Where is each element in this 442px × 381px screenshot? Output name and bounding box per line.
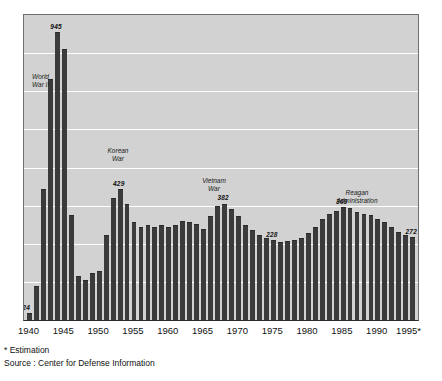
bar-slot	[312, 15, 319, 320]
bar-slot	[138, 15, 145, 320]
bar-slot	[221, 15, 228, 320]
bar-slot	[374, 15, 381, 320]
annotation-line-2: Administration	[318, 197, 396, 205]
x-axis-tick: 1980	[296, 325, 317, 336]
bar-slot	[263, 15, 270, 320]
bar	[125, 204, 130, 320]
bar	[327, 214, 332, 320]
data-label: 24	[23, 304, 30, 311]
bar-slot	[367, 15, 374, 320]
footnotes: * Estimation Source : Center for Defense…	[4, 344, 434, 370]
bar	[250, 230, 255, 320]
bar-slot	[388, 15, 395, 320]
bar-slot	[131, 15, 138, 320]
bar	[132, 222, 137, 320]
bar	[90, 273, 95, 320]
bar-slot	[291, 15, 298, 320]
data-label: 228	[266, 231, 277, 238]
bar-slot	[354, 15, 361, 320]
data-label: 382	[217, 194, 228, 201]
bar-slot	[305, 15, 312, 320]
x-axis-tick: 1955	[122, 325, 143, 336]
bar	[194, 224, 199, 320]
bar	[236, 216, 241, 320]
bar	[278, 242, 283, 320]
annotation-vietnam-war: Vietnam War	[190, 177, 238, 193]
bar-slot	[158, 15, 165, 320]
x-axis-tick: 1975	[262, 325, 283, 336]
x-axis-tick: 1950	[88, 325, 109, 336]
bar-slot	[40, 15, 47, 320]
bar-slot	[117, 15, 124, 320]
bar-slot	[33, 15, 40, 320]
bar-slot	[89, 15, 96, 320]
defense-spending-chart: 24945429382228369272 World War II Korean…	[0, 0, 442, 381]
bar	[243, 225, 248, 320]
bar-slot	[395, 15, 402, 320]
bar-slot	[54, 15, 61, 320]
annotation-line-1: Vietnam	[190, 177, 238, 185]
x-axis-tick: 1940	[18, 325, 39, 336]
bar	[159, 225, 164, 320]
bar-slot	[61, 15, 68, 320]
bar-slot	[214, 15, 221, 320]
bar	[369, 215, 374, 320]
x-axis-tick: 1965	[192, 325, 213, 336]
plot-area: 24945429382228369272 World War II Korean…	[23, 14, 419, 321]
bar-slot	[298, 15, 305, 320]
bar	[97, 271, 102, 320]
bar-slot	[68, 15, 75, 320]
bar	[62, 49, 67, 320]
bar-slot	[249, 15, 256, 320]
x-axis-tick: 1960	[157, 325, 178, 336]
bar-slot	[235, 15, 242, 320]
bar	[41, 189, 46, 320]
bar	[229, 209, 234, 320]
bar-slot	[277, 15, 284, 320]
bar	[173, 225, 178, 320]
bar	[292, 240, 297, 320]
annotation-line-1: Reagan	[318, 189, 396, 197]
bar-slot	[256, 15, 263, 320]
bar	[180, 221, 185, 320]
bar	[201, 229, 206, 321]
bar	[27, 313, 32, 320]
bar-slot	[186, 15, 193, 320]
x-axis-tick: 1970	[227, 325, 248, 336]
bar-slot	[409, 15, 416, 320]
bar-slot	[75, 15, 82, 320]
bar-slot	[333, 15, 340, 320]
data-label: 272	[406, 228, 417, 235]
bar-slot	[319, 15, 326, 320]
data-label: 945	[50, 23, 61, 30]
bar-slot	[242, 15, 249, 320]
annotation-line-2: War	[190, 185, 238, 193]
bar	[389, 227, 394, 320]
x-axis: 1940194519501955196019651970197519801985…	[23, 325, 419, 339]
bar-slot	[47, 15, 54, 320]
bar-slot	[96, 15, 103, 320]
x-axis-tick: 1945	[53, 325, 74, 336]
bar	[355, 212, 360, 320]
bar-slot	[144, 15, 151, 320]
bar	[104, 235, 109, 320]
bar	[118, 189, 123, 320]
bar-slot	[200, 15, 207, 320]
bar	[257, 235, 262, 320]
bar	[152, 227, 157, 320]
annotation-korean-war: Korean War	[96, 147, 140, 163]
bar-slot	[361, 15, 368, 320]
bar	[264, 238, 269, 320]
bar	[69, 215, 74, 320]
bar	[166, 227, 171, 320]
bar-slot	[165, 15, 172, 320]
bar	[139, 227, 144, 320]
bar	[271, 240, 276, 320]
bar	[222, 204, 227, 321]
bar-slot	[193, 15, 200, 320]
bar-slot	[124, 15, 131, 320]
data-label: 429	[113, 180, 124, 187]
bar-slot	[179, 15, 186, 320]
bar	[111, 198, 116, 320]
bar	[396, 232, 401, 320]
